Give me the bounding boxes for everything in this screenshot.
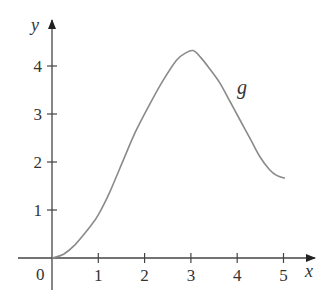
x-tick-label: 3 xyxy=(187,266,196,285)
x-tick-label: 5 xyxy=(279,266,288,285)
axes xyxy=(18,20,315,290)
origin-label: 0 xyxy=(36,265,45,284)
y-axis-label: y xyxy=(29,15,39,35)
y-tick-label: 3 xyxy=(34,105,43,124)
curve-label-g: g xyxy=(237,76,247,99)
line-chart: 12345 1234 0 x y g xyxy=(0,0,334,308)
x-tick-label: 4 xyxy=(233,266,242,285)
y-tick-label: 4 xyxy=(34,57,43,76)
curve-g xyxy=(52,50,285,258)
y-ticks: 1234 xyxy=(34,57,58,220)
x-axis-label: x xyxy=(304,261,313,281)
x-tick-label: 2 xyxy=(140,266,149,285)
y-tick-label: 1 xyxy=(34,201,43,220)
x-tick-label: 1 xyxy=(94,266,103,285)
y-tick-label: 2 xyxy=(34,153,43,172)
